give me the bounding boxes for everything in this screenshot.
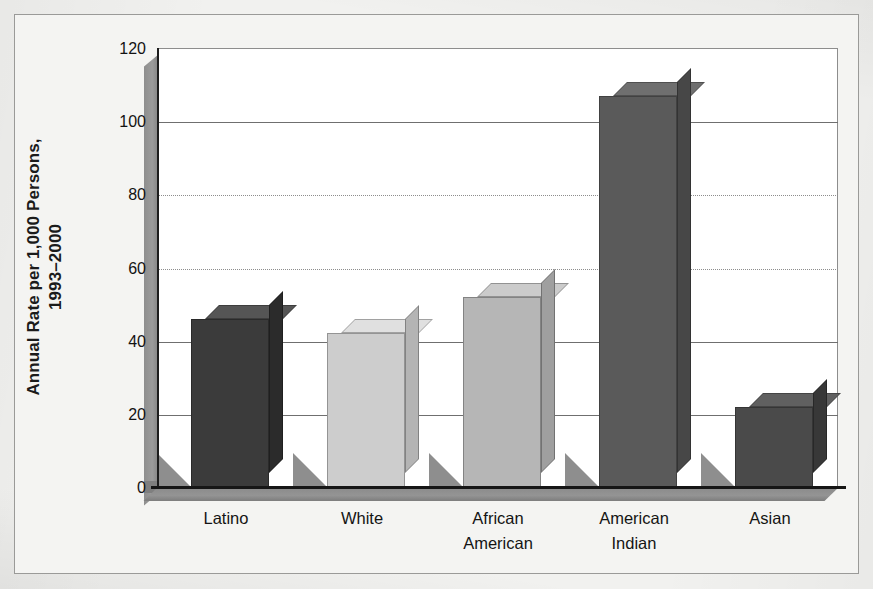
gridline-100 [158,122,838,123]
x-tick-label-american-indian: American Indian [566,506,702,556]
bar-front-face [599,96,677,487]
y-tick-label-120: 120 [119,40,146,58]
y-tick-label-0: 0 [137,479,146,497]
x-tick-label-asian: Asian [702,506,838,531]
y-tick-label-100: 100 [119,113,146,131]
bar-side-face [541,269,555,473]
bar-asian [735,393,827,487]
bar-shadow [157,453,191,487]
plot-area: 020406080100120 [158,48,838,487]
plot-wrapper: 020406080100120 LatinoWhiteAfrican Ameri… [138,34,844,504]
bar-shadow [429,453,463,487]
bar-top-face [205,305,297,319]
y-tick-label-80: 80 [128,186,146,204]
y-tick-label-60: 60 [128,260,146,278]
y-tick-label-40: 40 [128,333,146,351]
bar-american-indian [599,82,691,487]
bar-latino [191,305,283,487]
x-tick-label-african-american: African American [430,506,566,556]
bar-top-face [341,319,433,333]
bar-front-face [327,333,405,487]
bar-side-face [813,379,827,473]
bar-side-face [677,68,691,473]
bar-top-face [749,393,841,407]
bar-top-face [477,283,569,297]
bar-side-face [405,305,419,473]
bar-african-american [463,283,555,487]
gridline-60 [158,269,838,270]
y-axis-title: Annual Rate per 1,000 Persons, 1993–2000 [23,47,67,487]
x-tick-label-white: White [294,506,430,531]
gridline-80 [158,195,838,196]
x-axis-line [151,486,846,489]
y-tick-label-20: 20 [128,406,146,424]
bar-front-face [735,407,813,487]
bar-side-face [269,291,283,473]
bar-shadow [565,453,599,487]
bar-white [327,319,419,487]
bar-front-face [463,297,541,487]
bar-front-face [191,319,269,487]
y-axis-line [157,48,159,488]
bar-shadow [701,453,735,487]
bar-top-face [613,82,705,96]
bar-shadow [293,453,327,487]
x-tick-label-latino: Latino [158,506,294,531]
axis-bottom-floor-3d [144,487,839,501]
chart-figure: Annual Rate per 1,000 Persons, 1993–2000… [0,0,873,589]
